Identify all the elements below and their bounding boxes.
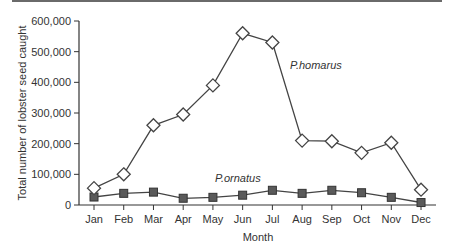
x-tick-label: Sep xyxy=(322,213,342,225)
diamond-marker xyxy=(266,36,279,49)
x-tick-label: Oct xyxy=(353,213,370,225)
diamond-marker xyxy=(415,183,428,196)
y-tick-label: 200,000 xyxy=(31,138,71,150)
y-tick-label: 300,000 xyxy=(31,107,71,119)
y-axis-ticks: 0100,000200,000300,000400,000500,000600,… xyxy=(31,15,79,211)
square-marker xyxy=(417,199,425,207)
series-line-p-homarus xyxy=(94,33,421,189)
square-marker xyxy=(298,189,306,197)
x-tick-label: Aug xyxy=(292,213,312,225)
y-tick-label: 400,000 xyxy=(31,76,71,88)
line-chart: 0100,000200,000300,000400,000500,000600,… xyxy=(0,0,455,250)
diamond-marker xyxy=(355,146,368,159)
x-tick-label: Mar xyxy=(144,213,163,225)
series-label-p-homarus: P.homarus xyxy=(290,59,342,71)
x-tick-label: Nov xyxy=(382,213,402,225)
y-tick-label: 0 xyxy=(65,199,71,211)
y-axis-title: Total number of lobster seed caught xyxy=(16,26,28,201)
diamond-marker xyxy=(117,168,130,181)
x-axis-ticks: JanFebMarAprMayJunJulAugSepOctNovDec xyxy=(85,205,431,225)
diamond-marker xyxy=(385,136,398,149)
square-marker xyxy=(268,186,276,194)
square-marker xyxy=(120,189,128,197)
y-tick-label: 100,000 xyxy=(31,168,71,180)
square-marker xyxy=(328,186,336,194)
square-marker xyxy=(209,193,217,201)
square-marker xyxy=(358,189,366,197)
x-tick-label: Dec xyxy=(411,213,431,225)
x-tick-label: Feb xyxy=(114,213,133,225)
x-tick-label: Jan xyxy=(85,213,103,225)
x-tick-label: Jul xyxy=(265,213,279,225)
diamond-marker xyxy=(296,134,309,147)
diamond-marker xyxy=(147,119,160,132)
square-marker xyxy=(149,188,157,196)
x-tick-label: Apr xyxy=(175,213,192,225)
square-marker xyxy=(387,193,395,201)
diamond-marker xyxy=(325,135,338,148)
x-tick-label: Jun xyxy=(234,213,252,225)
square-marker xyxy=(179,194,187,202)
x-axis-title: Month xyxy=(243,231,274,243)
square-marker xyxy=(239,191,247,199)
y-tick-label: 500,000 xyxy=(31,46,71,58)
y-tick-label: 600,000 xyxy=(31,15,71,27)
series-line-p-ornatus xyxy=(94,190,421,202)
diamond-marker xyxy=(88,182,101,195)
x-tick-label: May xyxy=(203,213,224,225)
series-label-p-ornatus: P.ornatus xyxy=(215,172,261,184)
diamond-marker xyxy=(236,27,249,40)
